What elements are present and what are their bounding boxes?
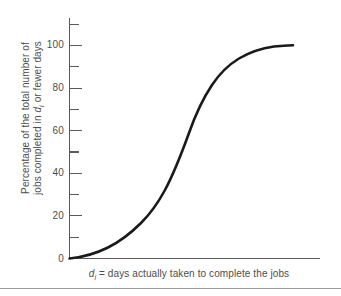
y-axis-title-line-2-post: or fewer days [32,41,43,105]
figure-bottom-rule [0,288,341,289]
x-axis-title-rest: = days actually taken to complete the jo… [96,268,289,279]
y-axis-title-line-2-pre: jobs completed in [32,113,43,195]
y-tick-label-0: 0 [40,253,64,264]
y-axis-title-variable: d [32,107,43,113]
y-axis-title-line-2: jobs completed in di or fewer days [32,41,49,195]
y-axis-title-subscript: i [38,105,45,107]
ogive-curve [70,45,294,258]
chart-figure: 0 20 40 60 80 100 Percentage of the tota… [0,0,341,296]
y-axis-title: Percentage of the total number of jobs c… [20,18,48,218]
x-axis-title: di = days actually taken to complete the… [60,268,318,281]
y-axis-title-line-1: Percentage of the total number of [20,42,33,194]
